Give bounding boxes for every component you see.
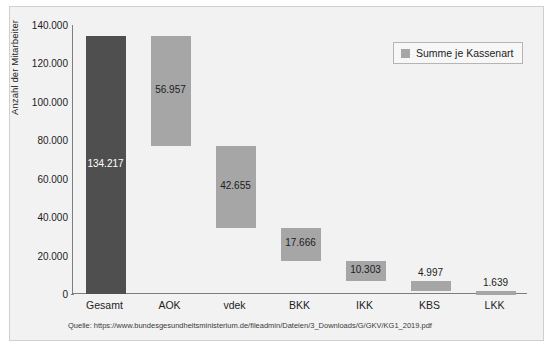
bar-aok[interactable]: 56.957: [151, 36, 191, 145]
y-axis-tick-label: 20.000: [12, 250, 68, 261]
legend-label-summe-je-kassenart: Summe je Kassenart: [416, 47, 513, 59]
y-axis-tick-label: 120.000: [12, 58, 68, 69]
legend-swatch-summe-je-kassenart: [401, 49, 410, 58]
x-axis-tick-label-bkk: BKK: [265, 299, 335, 311]
bar-value-label-bkk: 17.666: [281, 237, 321, 248]
bar-value-label-gesamt: 134.217: [86, 158, 126, 169]
x-axis-tick-label-aok: AOK: [135, 299, 205, 311]
y-axis-ticks: 020.00040.00060.00080.000100.000120.0001…: [10, 25, 68, 294]
bar-ikk[interactable]: 10.303: [346, 261, 386, 281]
bar-vdek[interactable]: 42.655: [216, 146, 256, 228]
y-axis-tick-label: 60.000: [12, 173, 68, 184]
bar-kbs[interactable]: [411, 281, 451, 291]
bar-value-label-aok: 56.957: [151, 84, 191, 95]
bar-value-label-kbs: 4.997: [396, 267, 466, 278]
bar-value-label-ikk: 10.303: [346, 264, 386, 275]
bar-lkk[interactable]: [476, 291, 516, 295]
y-axis-tick-label: 140.000: [12, 20, 68, 31]
chart-frame: Anzahl der Mitarbeiter 020.00040.00060.0…: [9, 6, 544, 341]
x-axis-tick-label-vdek: vdek: [200, 299, 270, 311]
y-axis-tick-label: 80.000: [12, 135, 68, 146]
bar-value-label-lkk: 1.639: [461, 277, 531, 288]
x-axis-tick-label-kbs: KBS: [395, 299, 465, 311]
y-axis-tick-label: 40.000: [12, 212, 68, 223]
bar-value-label-vdek: 42.655: [216, 180, 256, 191]
y-axis-tick-label: 0: [12, 289, 68, 300]
source-note: Quelle: https://www.bundesgesundheitsmin…: [68, 321, 432, 330]
y-axis-tick-mark: [71, 294, 74, 295]
y-axis-tick-label: 100.000: [12, 96, 68, 107]
plot-area: 134.21756.95742.65517.66610.3034.9971.63…: [72, 25, 527, 294]
chart-legend: Summe je Kassenart: [393, 42, 523, 64]
x-axis-tick-label-ikk: IKK: [330, 299, 400, 311]
x-axis-tick-label-lkk: LKK: [460, 299, 530, 311]
bar-gesamt[interactable]: 134.217: [86, 36, 126, 294]
bar-bkk[interactable]: 17.666: [281, 228, 321, 262]
chart-figure: Anzahl der Mitarbeiter 020.00040.00060.0…: [0, 0, 553, 348]
x-axis-tick-label-gesamt: Gesamt: [70, 299, 140, 311]
